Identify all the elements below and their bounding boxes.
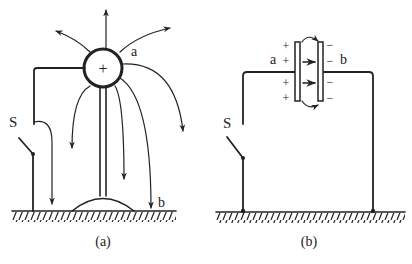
switch-a[interactable] — [19, 138, 35, 211]
field-line — [34, 121, 52, 204]
field-line — [120, 78, 151, 208]
label-b: b — [158, 195, 165, 210]
label-a: a — [131, 44, 138, 59]
caption-a: (a) — [95, 234, 111, 250]
charge-plus: + — [283, 39, 290, 53]
charge-minus: − — [327, 54, 334, 68]
insulating-stand — [100, 86, 106, 196]
diagram-root: + S a b (a) — [0, 0, 412, 264]
sphere-charge-sign: + — [98, 60, 107, 77]
fringe-field-arrow — [302, 101, 318, 107]
switch-label-b: S — [223, 115, 231, 131]
field-line — [72, 86, 90, 148]
plate-b — [318, 42, 323, 101]
charge-plus: + — [283, 76, 290, 90]
caption-b: (b) — [301, 234, 318, 250]
field-line — [123, 64, 183, 131]
charge-minus: − — [327, 75, 334, 89]
ground-a — [12, 211, 176, 222]
charge-plus: + — [283, 54, 290, 68]
field-line — [120, 28, 170, 52]
switch-b[interactable] — [227, 137, 245, 213]
fringe-field-arrow — [302, 37, 318, 42]
charge-plus: + — [283, 91, 290, 105]
charge-minus: − — [327, 38, 334, 52]
figure-b: S + + + + − − − − a b (b) — [216, 37, 405, 250]
label-b: b — [340, 52, 347, 67]
wire-a — [34, 68, 84, 124]
diagram-svg: + S a b (a) — [0, 0, 412, 264]
insulating-base — [72, 199, 134, 212]
figure-a: + S a b (a) — [9, 10, 183, 250]
field-line — [115, 86, 124, 179]
charge-minus: − — [327, 91, 334, 105]
ground-b — [216, 212, 405, 223]
switch-label-a: S — [9, 114, 17, 130]
plate-a — [295, 42, 300, 101]
label-a: a — [270, 52, 277, 67]
field-line — [56, 31, 90, 52]
